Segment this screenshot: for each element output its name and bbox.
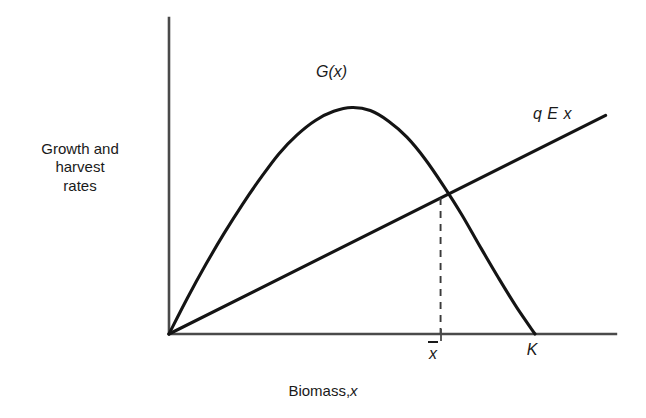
harvest-line-qex [169, 115, 606, 334]
growth-harvest-figure: Growth and harvest rates Biomass,x G(x) … [0, 0, 646, 418]
y-axis-label-line-3: rates [18, 177, 142, 195]
xbar-overbar: x [429, 340, 437, 364]
x-tick-label-k: K [527, 340, 538, 360]
xbar-letter: x [429, 340, 437, 364]
x-axis-label-variable: x [350, 382, 358, 399]
growth-curve-gx [169, 108, 535, 334]
y-axis-label-line-1: Growth and [18, 140, 142, 158]
x-axis-label-text: Biomass, [288, 382, 350, 399]
curve-annotation-gx: G(x) [316, 62, 347, 82]
y-axis-label: Growth and harvest rates [18, 140, 142, 195]
x-tick-label-xbar: x [429, 340, 437, 364]
x-axis-label: Biomass,x [0, 382, 646, 400]
y-axis-label-line-2: harvest [18, 158, 142, 176]
line-annotation-qex: q E x [533, 104, 572, 124]
